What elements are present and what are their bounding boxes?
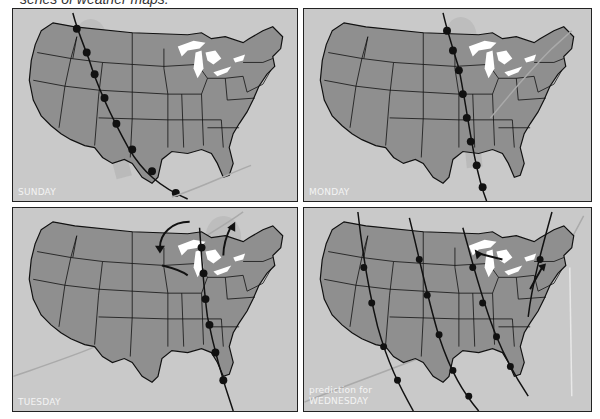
us-map-monday	[304, 9, 591, 201]
us-map-tuesday	[13, 208, 297, 411]
us-map-wednesday	[304, 208, 591, 411]
warm-front-icon	[172, 165, 251, 197]
map-panel-wednesday: prediction for WEDNESDAY	[303, 207, 592, 412]
prediction-label: prediction for	[309, 385, 372, 396]
map-panel-tuesday: TUESDAY	[12, 207, 298, 412]
us-map-sunday	[13, 9, 297, 201]
day-label-tuesday: TUESDAY	[18, 397, 61, 408]
day-label-sunday: SUNDAY	[18, 187, 56, 198]
map-panel-sunday: SUNDAY	[12, 8, 298, 202]
day-label-wednesday-text: WEDNESDAY	[309, 396, 372, 407]
day-label-wednesday: prediction for WEDNESDAY	[309, 385, 372, 407]
figure-caption: series of weather maps.	[20, 0, 169, 7]
day-label-monday: MONDAY	[309, 187, 350, 198]
map-panel-monday: MONDAY	[303, 8, 592, 202]
